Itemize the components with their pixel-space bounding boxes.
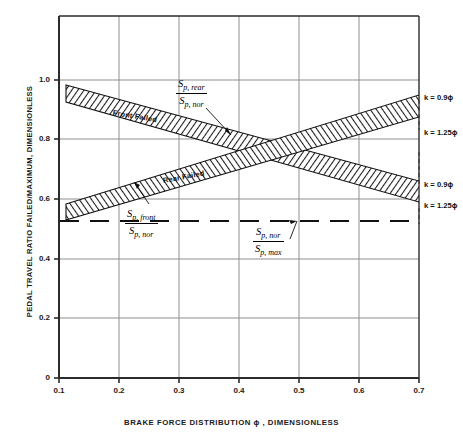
frac-numerator-subscript: p, nor — [261, 231, 280, 240]
x-tick-label-0.2: 0.2 — [106, 386, 132, 395]
frac-denominator-subscript: p, max — [260, 248, 281, 257]
frac-denominator-subscript: p, nor — [134, 230, 153, 239]
k-label-1.25-upper: k = 1.25ϕ — [424, 128, 457, 137]
k-label-1.25-lower: k = 1.25ϕ — [424, 201, 457, 210]
annotation-sp-nor-over-sp-max: Sp, nor Sp, max — [253, 226, 284, 257]
annotation-sp-rear-over-sp-nor: Sp, rear Sp, nor — [176, 78, 207, 109]
frac-numerator-subscript: p, front — [132, 213, 155, 222]
y-axis-title: PEDAL TRAVEL RATIO FAILED/MAXIMUM, DIMEN… — [25, 52, 34, 352]
x-tick-label-0.3: 0.3 — [166, 386, 192, 395]
x-tick-label-0.1: 0.1 — [46, 386, 72, 395]
k-label-0.9-upper: k = 0.9ϕ — [424, 93, 453, 102]
x-tick-label-0.5: 0.5 — [286, 386, 312, 395]
x-tick-label-0.6: 0.6 — [346, 386, 372, 395]
annotation-sp-front-over-sp-nor: Sp, front Sp, nor — [125, 208, 158, 239]
frac-denominator-subscript: p, nor — [184, 100, 203, 109]
y-tick-label-0: 0 — [28, 373, 50, 382]
x-tick-label-0.4: 0.4 — [226, 386, 252, 395]
x-tick-label-0.7: 0.7 — [406, 386, 432, 395]
x-axis-title: BRAKE FORCE DISTRIBUTION ϕ , DIMENSIONLE… — [0, 418, 463, 427]
k-label-0.9-lower: k = 0.9ϕ — [424, 180, 453, 189]
chart-figure: 1.0 0.8 0.6 0.4 0.2 0 0.1 0.2 0.3 0.4 0.… — [0, 0, 463, 443]
chart-plot-area — [0, 0, 463, 443]
frac-numerator-subscript: p, rear — [183, 83, 204, 92]
